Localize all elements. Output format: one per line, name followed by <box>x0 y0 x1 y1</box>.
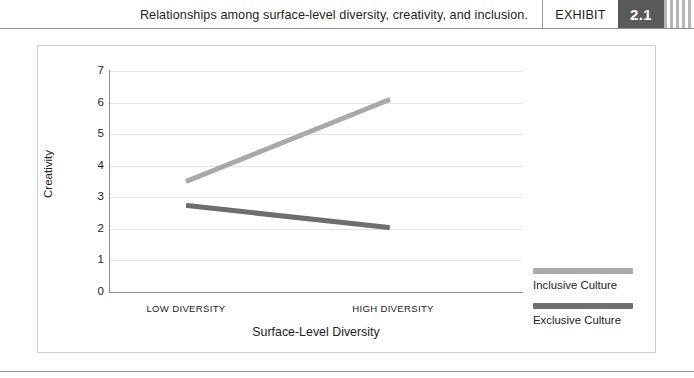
y-tick-label-7: 7 <box>78 65 104 77</box>
x-tick-label-low-diversity: LOW DIVERSITY <box>130 303 242 314</box>
gridline-1 <box>110 260 522 261</box>
x-axis-title: Surface-Level Diversity <box>110 325 522 339</box>
legend-swatch-inclusive-culture <box>533 268 633 274</box>
y-tick-label-3: 3 <box>78 191 104 203</box>
y-axis-title: Creativity <box>42 114 54 234</box>
series-line-exclusive-culture <box>186 203 391 230</box>
plot-area <box>110 71 522 292</box>
gridline-2 <box>110 229 522 230</box>
y-tick-label-2: 2 <box>78 223 104 235</box>
y-tick-label-6: 6 <box>78 97 104 109</box>
y-tick-label-0: 0 <box>78 286 104 298</box>
gridline-6 <box>110 103 522 104</box>
gridline-5 <box>110 134 522 135</box>
legend-item-inclusive-culture: Inclusive Culture <box>533 268 637 291</box>
chart-figure: 7 6 5 4 3 2 1 0 Creativity LOW DIVERSITY… <box>0 0 694 378</box>
y-tick-label-4: 4 <box>78 160 104 172</box>
y-axis-line <box>109 70 110 293</box>
y-tick-label-1: 1 <box>78 254 104 266</box>
legend-item-exclusive-culture: Exclusive Culture <box>533 303 637 326</box>
gridline-3 <box>110 197 522 198</box>
x-axis-line <box>109 292 523 293</box>
legend-label-inclusive-culture: Inclusive Culture <box>533 279 637 291</box>
legend-label-exclusive-culture: Exclusive Culture <box>533 314 637 326</box>
y-tick-label-5: 5 <box>78 128 104 140</box>
series-line-inclusive-culture <box>185 97 391 184</box>
chart-legend: Inclusive Culture Exclusive Culture <box>533 268 637 338</box>
gridline-4 <box>110 166 522 167</box>
page-bottom-divider <box>0 371 694 372</box>
x-tick-label-high-diversity: HIGH DIVERSITY <box>337 303 449 314</box>
gridline-7 <box>110 71 522 72</box>
legend-swatch-exclusive-culture <box>533 303 633 309</box>
